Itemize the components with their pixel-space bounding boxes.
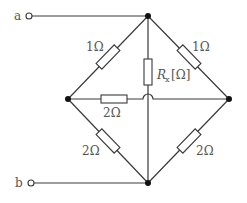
resistor-rx [144, 59, 152, 85]
node-bottom [145, 180, 151, 186]
label-bottom-left: 2Ω [82, 144, 100, 158]
node-top [145, 13, 151, 19]
label-bottom-right: 2Ω [196, 144, 214, 158]
label-rx-unit: [Ω] [171, 68, 190, 82]
terminal-b [28, 180, 34, 186]
node-left [65, 96, 71, 102]
resistor-middle [101, 95, 127, 103]
label-b: b [15, 176, 23, 190]
resistor-bottom-left [96, 129, 120, 153]
label-rx-subscript: x [165, 75, 170, 84]
terminal-a [26, 13, 32, 19]
label-top-right: 1Ω [192, 40, 210, 54]
label-middle: 2Ω [103, 106, 121, 120]
node-right [226, 96, 232, 102]
label-top-left: 1Ω [86, 40, 104, 54]
circuit-diagram: a b 1Ω 1Ω 2Ω 2Ω 2Ω R x [Ω] [0, 0, 247, 203]
label-a: a [14, 9, 21, 23]
